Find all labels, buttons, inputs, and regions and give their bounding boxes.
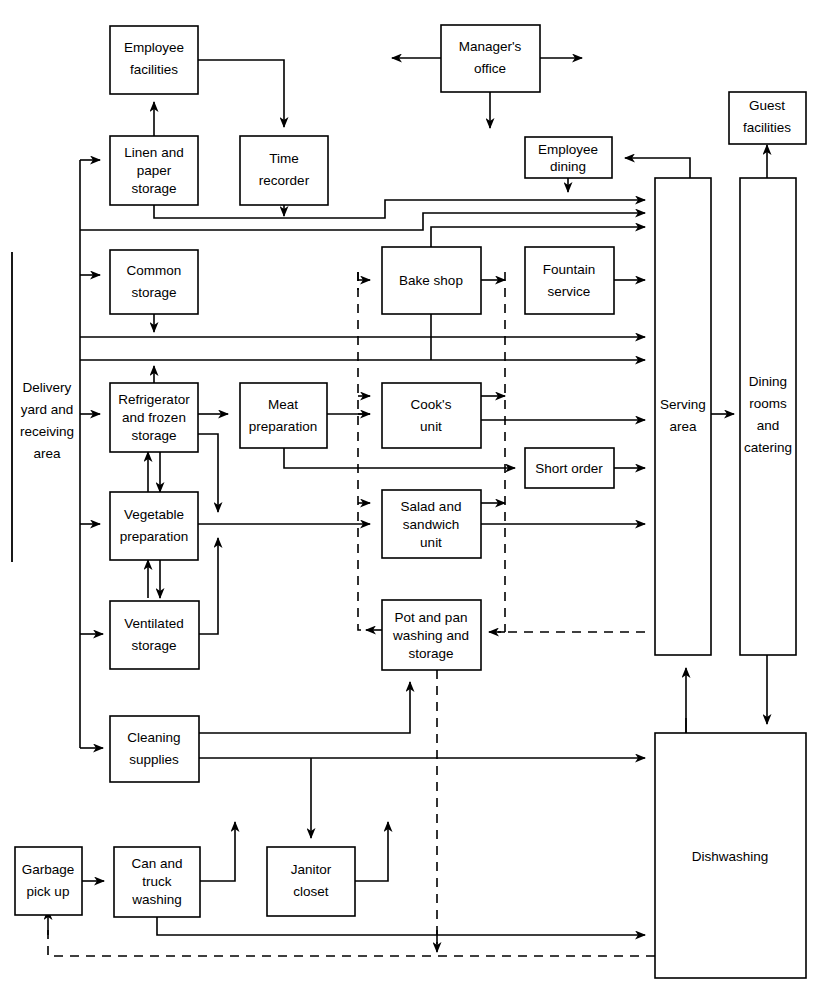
cooks-unit-label-line2: unit [420, 419, 442, 434]
ventilated-up-to-refrigerator-col [199, 538, 218, 634]
node-managers-office[interactable]: Manager's office [441, 25, 540, 92]
managers-office-label-line2: office [474, 61, 506, 76]
vegetable-prep-label-line1: Vegetable [124, 507, 184, 522]
dining-rooms-label-line3: and [757, 418, 780, 433]
can-truck-washing-up-arrow [200, 822, 235, 881]
salad-unit-label-line2: sandwich [403, 517, 459, 532]
serving-area-label-line2: area [669, 419, 697, 434]
common-storage-label-line1: Common [127, 263, 182, 278]
node-pot-pan-washing[interactable]: Pot and pan washing and storage [382, 600, 481, 670]
janitor-closet-up-arrow [355, 822, 388, 881]
short-order-label: Short order [535, 461, 603, 476]
delivery-yard-label-line4: area [33, 446, 61, 461]
cleaning-supplies-label-line2: supplies [129, 752, 179, 767]
node-short-order[interactable]: Short order [525, 448, 614, 488]
cleaning-supplies-label-line1: Cleaning [127, 730, 180, 745]
managers-office-label-line1: Manager's [459, 39, 522, 54]
serving-area-to-employee-dining [625, 158, 690, 178]
node-janitor-closet[interactable]: Janitor closet [267, 847, 355, 916]
flow-diagram-canvas: Employee facilities Manager's office Gue… [0, 0, 822, 992]
node-dining-rooms-catering[interactable]: Dining rooms and catering [740, 178, 796, 655]
salad-unit-label-line3: unit [420, 535, 442, 550]
node-employee-facilities[interactable]: Employee facilities [110, 26, 198, 94]
potpan-label-line2: washing and [392, 628, 469, 643]
guest-facilities-label-line1: Guest [749, 98, 785, 113]
node-garbage-pick-up[interactable]: Garbage pick up [15, 847, 82, 915]
delivery-yard-label-line3: receiving [20, 424, 74, 439]
time-recorder-label-line1: Time [269, 151, 299, 166]
guest-facilities-label-line2: facilities [743, 120, 791, 135]
node-can-truck-washing[interactable]: Can and truck washing [114, 847, 200, 917]
label-delivery-yard: Delivery yard and receiving area [20, 380, 74, 461]
employee-facilities-label-line2: facilities [130, 62, 178, 77]
fountain-service-label-line2: service [548, 284, 591, 299]
delivery-yard-label-line2: yard and [21, 402, 74, 417]
dining-rooms-label-line1: Dining [749, 374, 787, 389]
bake-shop-to-serving-area [431, 227, 645, 247]
time-recorder-label-line2: recorder [259, 173, 310, 188]
refrigerator-label-line2: and frozen [122, 410, 186, 425]
node-salad-sandwich-unit[interactable]: Salad and sandwich unit [382, 490, 481, 558]
node-refrigerator-frozen-storage[interactable]: Refrigerator and frozen storage [110, 383, 198, 452]
potpan-label-line3: storage [408, 646, 453, 661]
garbage-label-line1: Garbage [22, 862, 75, 877]
refrigerator-right-down [198, 434, 218, 512]
cooks-unit-label-line1: Cook's [411, 397, 452, 412]
dining-rooms-label-line4: catering [744, 440, 792, 455]
node-linen-paper-storage[interactable]: Linen and paper storage [110, 136, 198, 205]
employee-facilities-to-time-recorder [198, 60, 284, 127]
node-time-recorder[interactable]: Time recorder [240, 136, 328, 205]
refrigerator-label-line3: storage [131, 428, 176, 443]
refrigerator-label-line1: Refrigerator [118, 392, 190, 407]
return-dashed-left-spine [358, 272, 370, 630]
meat-prep-label-line1: Meat [268, 397, 298, 412]
node-dishwashing[interactable]: Dishwashing [655, 733, 806, 978]
ventilated-storage-label-line2: storage [131, 638, 176, 653]
serving-area-label-line1: Serving [660, 397, 706, 412]
node-cooks-unit[interactable]: Cook's unit [382, 383, 481, 448]
linen-to-serving-area [154, 200, 645, 218]
meat-prep-to-short-order [284, 448, 515, 468]
dishwashing-label: Dishwashing [692, 849, 769, 864]
janitor-closet-label-line2: closet [293, 884, 329, 899]
linen-paper-storage-label-line2: paper [137, 163, 172, 178]
employee-dining-label-line1: Employee [538, 142, 598, 157]
can-truck-label-line3: washing [131, 892, 182, 907]
garbage-label-line2: pick up [27, 884, 70, 899]
node-serving-area[interactable]: Serving area [655, 178, 711, 655]
ventilated-storage-label-line1: Ventilated [124, 616, 183, 631]
node-ventilated-storage[interactable]: Ventilated storage [110, 601, 199, 669]
meat-prep-label-line2: preparation [249, 419, 317, 434]
node-common-storage[interactable]: Common storage [110, 250, 198, 314]
node-cleaning-supplies[interactable]: Cleaning supplies [110, 716, 199, 782]
node-fountain-service[interactable]: Fountain service [525, 247, 614, 314]
can-truck-washing-to-dishwashing [157, 917, 645, 935]
salad-unit-label-line1: Salad and [401, 499, 462, 514]
node-employee-dining[interactable]: Employee dining [525, 137, 612, 178]
delivery-yard-label-line1: Delivery [23, 380, 72, 395]
node-guest-facilities[interactable]: Guest facilities [729, 92, 806, 144]
node-meat-preparation[interactable]: Meat preparation [240, 383, 327, 448]
node-vegetable-preparation[interactable]: Vegetable preparation [110, 492, 198, 560]
node-bake-shop[interactable]: Bake shop [382, 247, 481, 314]
common-storage-label-line2: storage [131, 285, 176, 300]
linen-paper-storage-label-line1: Linen and [124, 145, 183, 160]
fountain-service-label-line1: Fountain [543, 262, 596, 277]
dishwashing-to-garbage-dashed [48, 928, 655, 956]
dining-rooms-label-line2: rooms [749, 396, 787, 411]
janitor-closet-label-line1: Janitor [291, 862, 332, 877]
cleaning-supplies-to-potpan [199, 682, 410, 733]
vegetable-prep-label-line2: preparation [120, 529, 188, 544]
bake-shop-label: Bake shop [399, 273, 463, 288]
can-truck-label-line2: truck [142, 874, 172, 889]
potpan-label-line1: Pot and pan [395, 610, 468, 625]
employee-dining-label-line2: dining [550, 159, 586, 174]
employee-facilities-label-line1: Employee [124, 40, 184, 55]
linen-paper-storage-label-line3: storage [131, 181, 176, 196]
can-truck-label-line1: Can and [131, 856, 182, 871]
